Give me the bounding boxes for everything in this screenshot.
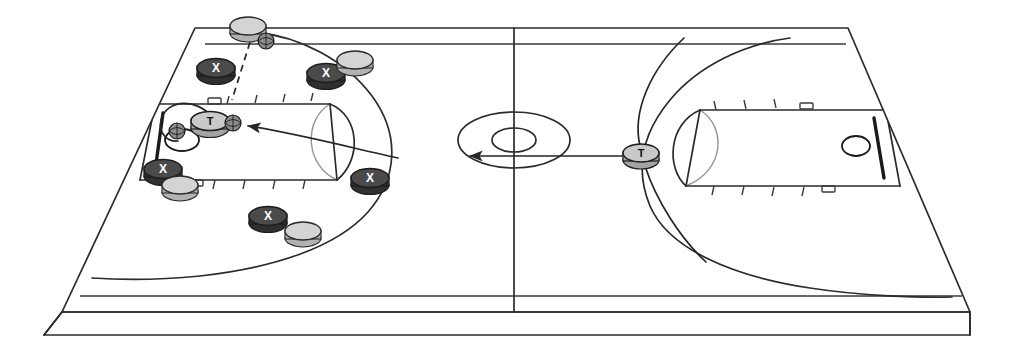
offense-3[interactable]	[162, 176, 198, 201]
coach-right-wing[interactable]: T	[623, 144, 659, 169]
right-backboard	[874, 118, 884, 178]
route-pass-arrow-to-ball	[248, 126, 398, 158]
left-lane-hash-marks-upper	[208, 93, 313, 104]
defender-5-label: X	[264, 209, 272, 223]
coach-right-wing-label: T	[638, 147, 645, 159]
defender-4[interactable]: X	[351, 169, 389, 195]
defender-5[interactable]: X	[249, 207, 287, 233]
defender-3-label: X	[159, 162, 167, 176]
ball-at-left-rim	[169, 123, 185, 139]
ball-top-inbound	[258, 33, 274, 49]
coach-left-key[interactable]: T	[191, 112, 229, 138]
defender-1[interactable]: X	[197, 59, 235, 85]
ball-at-coach	[225, 115, 241, 131]
defender-1-label: X	[212, 61, 220, 75]
right-key	[673, 110, 900, 186]
coach-left-key-label: T	[207, 115, 214, 127]
right-lane-hash-marks-lower	[712, 186, 835, 196]
court-diagram-svg: X X X X X	[0, 0, 1026, 363]
defender-2-label: X	[322, 66, 330, 80]
left-lane-hash-marks-lower	[190, 180, 305, 189]
offense-4[interactable]	[285, 222, 321, 247]
defender-4-label: X	[366, 171, 374, 185]
court-3d-edge	[44, 312, 970, 335]
diagram-canvas: X X X X X	[0, 0, 1026, 363]
right-rim	[842, 136, 870, 156]
offense-2[interactable]	[337, 51, 373, 76]
right-lane-hash-marks-upper	[714, 99, 813, 110]
